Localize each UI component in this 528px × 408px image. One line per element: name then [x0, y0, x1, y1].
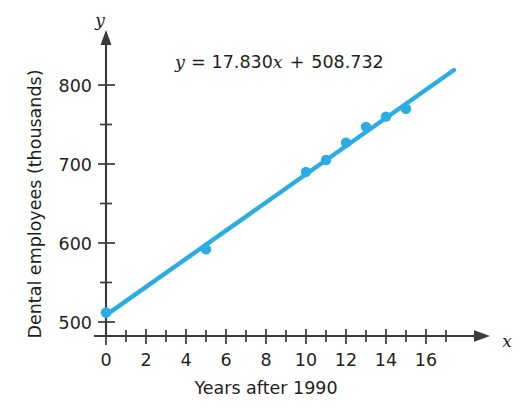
equation-equals-symbol: = — [191, 52, 206, 72]
equation-intercept-value: 508.732 — [311, 52, 383, 72]
x-axis-tick-label: 12 — [335, 350, 357, 370]
y-axis-tick-label: 700 — [59, 155, 92, 175]
x-axis-arrowhead — [474, 330, 490, 342]
data-point — [321, 155, 331, 165]
y-axis-tick-labels-group: 500600700800 — [59, 76, 92, 333]
y-axis-title: Dental employees (thousands) — [25, 70, 45, 339]
x-axis-tick-label: 16 — [415, 350, 437, 370]
x-axis-tick-label: 0 — [100, 350, 111, 370]
equation-plus-symbol: + — [290, 52, 305, 72]
svg-text:y=17.830x+508.732: y=17.830x+508.732 — [174, 52, 384, 72]
data-point — [381, 111, 391, 121]
y-axis-arrowhead — [101, 30, 112, 45]
y-axis-tick-label: 800 — [59, 76, 92, 96]
scatter-plot-svg: Dental employees (thousands) Years after… — [0, 0, 528, 408]
data-point — [341, 137, 351, 147]
data-point — [301, 167, 311, 177]
x-axis-tick-label: 6 — [220, 350, 231, 370]
data-point — [361, 122, 371, 132]
data-point — [201, 244, 211, 254]
data-point — [101, 307, 111, 317]
x-axis-title: Years after 1990 — [193, 378, 337, 398]
y-axis-tick-label: 500 — [59, 313, 92, 333]
y-axis-variable-label: y — [94, 10, 105, 30]
x-axis-variable-label: x — [502, 331, 512, 351]
data-point — [401, 104, 411, 114]
equation-slope-value: 17.830 — [212, 52, 273, 72]
x-axis-tick-label: 10 — [295, 350, 317, 370]
x-axis-tick-label: 4 — [180, 350, 191, 370]
regression-equation-annotation: y=17.830x+508.732 — [174, 52, 384, 72]
x-axis-tick-label: 14 — [375, 350, 397, 370]
y-axis-tick-label: 600 — [59, 234, 92, 254]
x-axis-tick-label: 8 — [260, 350, 271, 370]
equation-x-symbol: x — [273, 52, 283, 72]
chart-figure: Dental employees (thousands) Years after… — [0, 0, 528, 408]
x-axis-tick-labels-group: 0246810121416 — [100, 350, 437, 370]
x-axis-tick-label: 2 — [140, 350, 151, 370]
equation-y-symbol: y — [174, 52, 186, 72]
